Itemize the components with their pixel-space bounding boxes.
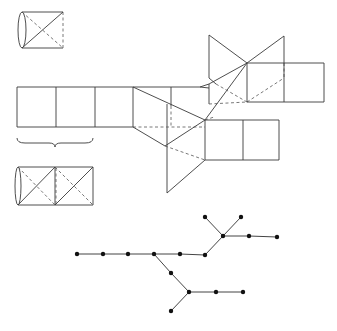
tree-node — [221, 234, 225, 238]
curly-brace — [17, 138, 93, 147]
tree-node — [247, 234, 251, 238]
square-row — [17, 87, 171, 127]
twisted-prism — [133, 35, 324, 193]
tree-edge — [171, 273, 189, 292]
tree-node — [169, 271, 173, 275]
tree-edges — [77, 217, 277, 311]
tree-node — [187, 290, 191, 294]
tree-node — [275, 235, 279, 239]
tree-edge — [154, 254, 171, 273]
tree-node — [178, 252, 182, 256]
tree-edge — [171, 292, 189, 311]
tree-edge — [205, 236, 223, 255]
tree-node — [203, 253, 207, 257]
cylinder-glyph-double — [15, 167, 93, 205]
tree-node — [152, 252, 156, 256]
tree-node — [241, 290, 245, 294]
tree-node — [169, 309, 173, 313]
tree-edge — [205, 217, 223, 236]
tree-node — [214, 290, 218, 294]
tree-node — [126, 252, 130, 256]
diagram-canvas — [0, 0, 337, 331]
tree-edge — [249, 236, 277, 237]
tree-nodes — [75, 215, 279, 313]
tree-node — [101, 252, 105, 256]
tree-edge — [180, 254, 205, 255]
net-diagram — [0, 0, 337, 331]
tree-edge — [223, 217, 241, 236]
tree-node — [203, 215, 207, 219]
cylinder-glyph-single — [18, 12, 63, 48]
tree-node — [239, 215, 243, 219]
tree-node — [75, 252, 79, 256]
